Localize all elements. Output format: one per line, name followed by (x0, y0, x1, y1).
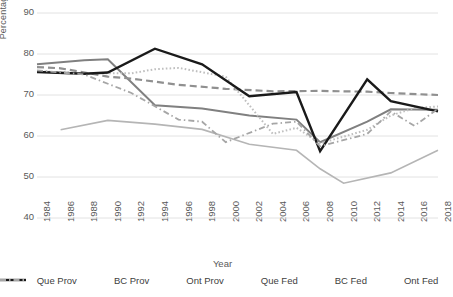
legend-item-bc-prov[interactable]: BC Prov (84, 275, 149, 286)
legend-label: Ont Prov (186, 275, 224, 286)
legend-item-ont-fed[interactable]: Ont Fed (374, 275, 438, 286)
legend-label: Que Prov (37, 275, 77, 286)
legend-item-ont-prov[interactable]: Ont Prov (156, 275, 224, 286)
legend-swatch-icon (374, 276, 400, 286)
series-line-que-fed (37, 68, 438, 143)
series-line-que-prov (37, 59, 438, 142)
legend-item-que-fed[interactable]: Que Fed (231, 275, 298, 286)
legend-label: BC Prov (114, 275, 149, 286)
legend-swatch-icon (84, 276, 110, 286)
plot-area (0, 0, 445, 232)
legend-label: BC Fed (335, 275, 367, 286)
legend-label: Ont Fed (404, 275, 438, 286)
chart-legend: Que ProvBC ProvOnt ProvQue FedBC FedOnt … (0, 275, 445, 286)
legend-swatch-icon (156, 276, 182, 286)
x-axis-title: Year (0, 258, 445, 269)
legend-item-bc-fed[interactable]: BC Fed (305, 275, 367, 286)
legend-swatch-icon (305, 276, 331, 286)
series-line-ont-prov (61, 120, 438, 183)
legend-swatch-icon (231, 276, 257, 286)
legend-label: Que Fed (261, 275, 298, 286)
series-line-ont-fed (37, 70, 438, 146)
